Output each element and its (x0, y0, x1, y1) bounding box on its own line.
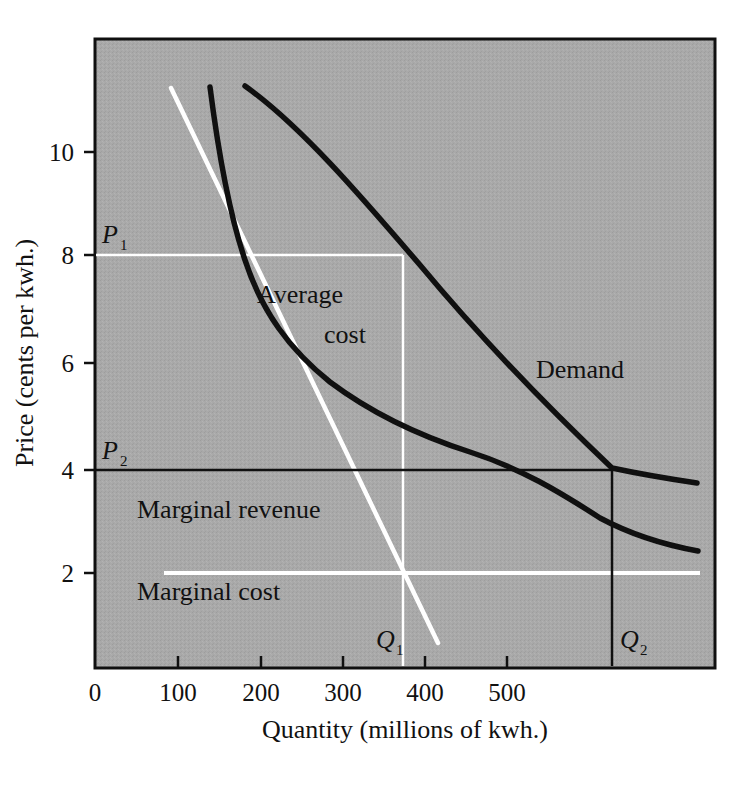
y-tick-label-4: 4 (62, 457, 75, 484)
demand-label: Demand (536, 355, 624, 384)
marker-q2-base: Q (620, 625, 639, 654)
y-tick-label-10: 10 (49, 139, 74, 166)
y-tick-label-2: 2 (62, 560, 75, 587)
y-tick-label-6: 6 (62, 350, 75, 377)
x-axis-title: Quantity (millions of kwh.) (262, 715, 548, 744)
marker-q1-base: Q (376, 625, 395, 654)
marker-p2-subscript: 2 (120, 453, 128, 469)
x-tick-label-300: 300 (324, 679, 362, 706)
x-tick-label-400: 400 (406, 679, 444, 706)
marker-p1-subscript: 1 (120, 237, 128, 253)
x-tick-label-100: 100 (159, 679, 197, 706)
marginal-cost-label: Marginal cost (137, 577, 281, 606)
average-cost-label-line-2: cost (324, 320, 367, 349)
y-axis-title: Price (cents per kwh.) (10, 239, 39, 467)
figure-page: 10 8 6 4 2 0 100 200 300 400 500 Quantit… (0, 0, 756, 786)
marginal-revenue-label: Marginal revenue (137, 495, 321, 524)
x-tick-label-200: 200 (242, 679, 280, 706)
economics-chart: 10 8 6 4 2 0 100 200 300 400 500 Quantit… (0, 0, 756, 786)
marker-p1-base: P (101, 220, 118, 249)
y-tick-label-8: 8 (62, 242, 75, 269)
x-tick-label-500: 500 (488, 679, 526, 706)
marker-p2-base: P (101, 436, 118, 465)
marker-q2-subscript: 2 (640, 642, 648, 658)
x-tick-label-0: 0 (89, 679, 102, 706)
average-cost-label-line-1: Average (257, 280, 343, 309)
marker-q1-subscript: 1 (396, 642, 404, 658)
